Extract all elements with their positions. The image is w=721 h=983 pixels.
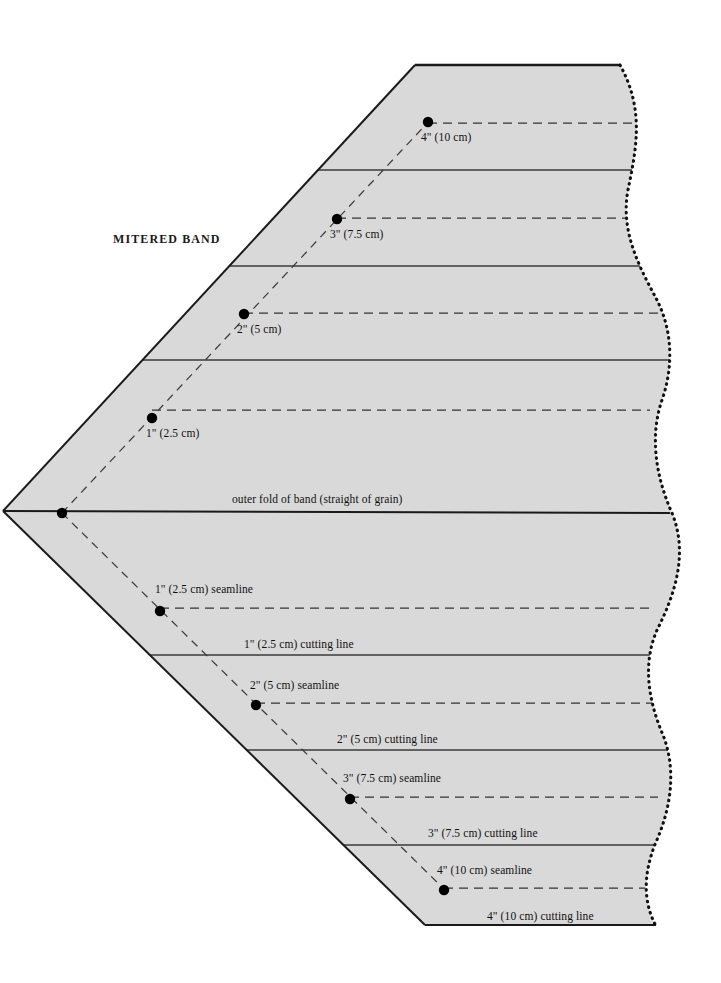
diagram-title: MITERED BAND xyxy=(113,232,221,247)
dot-fold-origin xyxy=(57,508,67,518)
label-upper-1in: 1" (2.5 cm) xyxy=(146,427,199,439)
mitered-band-diagram: MITERED BAND outer fold of band (straigh… xyxy=(0,0,721,983)
dot-upper-3in xyxy=(332,214,342,224)
dot-lower-2in xyxy=(251,700,261,710)
dot-upper-4in xyxy=(423,117,433,127)
label-cutting-2in: 2" (5 cm) cutting line xyxy=(337,733,438,745)
label-upper-3in: 3" (7.5 cm) xyxy=(330,228,383,240)
label-lower-3in-seamline: 3" (7.5 cm) seamline xyxy=(343,772,441,784)
label-cutting-1in: 1" (2.5 cm) cutting line xyxy=(244,638,354,650)
dot-lower-1in xyxy=(155,606,165,616)
label-lower-1in-seamline: 1" (2.5 cm) seamline xyxy=(155,583,253,595)
outer-fold-label: outer fold of band (straight of grain) xyxy=(232,493,403,505)
dot-upper-1in xyxy=(147,413,157,423)
label-upper-4in: 4" (10 cm) xyxy=(421,131,471,143)
label-cutting-4in: 4" (10 cm) cutting line xyxy=(487,910,594,922)
label-lower-4in-seamline: 4" (10 cm) seamline xyxy=(437,864,532,876)
label-upper-2in: 2" (5 cm) xyxy=(237,323,282,335)
label-cutting-3in: 3" (7.5 cm) cutting line xyxy=(428,827,538,839)
dot-lower-4in xyxy=(439,885,449,895)
dot-lower-3in xyxy=(345,794,355,804)
pattern-drawing xyxy=(0,0,721,983)
label-lower-2in-seamline: 2" (5 cm) seamline xyxy=(250,679,339,691)
dot-upper-2in xyxy=(239,309,249,319)
